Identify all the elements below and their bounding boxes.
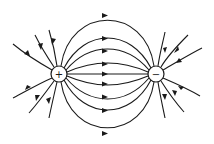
field-lines-diagram: + − — [0, 0, 214, 144]
positive-sign: + — [55, 69, 63, 80]
negative-sign: − — [152, 69, 160, 80]
negative-charge: − — [148, 66, 164, 82]
negative-inward-lines — [158, 32, 202, 118]
positive-charge: + — [51, 66, 67, 82]
